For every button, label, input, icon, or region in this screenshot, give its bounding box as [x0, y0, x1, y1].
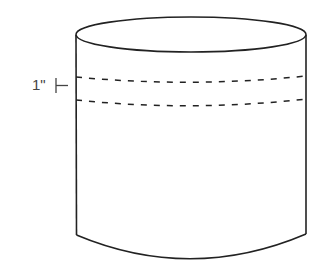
- cylinder-top-ellipse: [76, 17, 306, 52]
- cylinder-diagram: [0, 0, 321, 275]
- band-upper-dashed-line: [76, 76, 306, 82]
- cylinder-left-side: [76, 35, 77, 235]
- measurement-bracket: [56, 78, 68, 93]
- cylinder-bottom-curve: [77, 234, 307, 259]
- measurement-label: 1": [32, 76, 46, 93]
- band-lower-dashed-line: [76, 99, 306, 106]
